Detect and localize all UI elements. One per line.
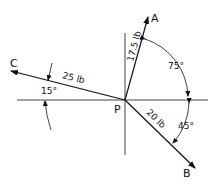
label-p: P: [114, 103, 121, 116]
angle-label-45: 45°: [178, 121, 194, 131]
angle-arrow-15-bottom: [45, 101, 51, 130]
angle-arrow-15-top: [48, 63, 52, 80]
magnitude-b: 20 lb: [145, 107, 168, 130]
angle-label-75: 75°: [168, 61, 184, 71]
label-b: B: [183, 167, 191, 180]
label-a: A: [151, 12, 159, 25]
force-diagram: A B C P 17.5 lb 20 lb 25 lb 75° 45° 15°: [0, 0, 215, 190]
angle-label-15: 15°: [41, 86, 57, 96]
magnitude-c: 25 lb: [62, 70, 87, 85]
label-c: C: [10, 57, 18, 70]
force-b-vector: [125, 100, 195, 168]
